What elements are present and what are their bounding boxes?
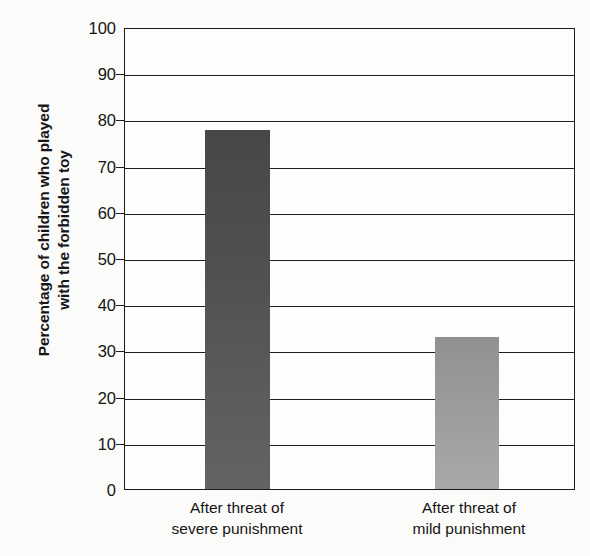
gridline-90 <box>125 75 574 76</box>
y-axis-title-line-1: Percentage of children who played <box>34 104 54 357</box>
bar-mild-punishment <box>435 337 499 489</box>
y-tick-mark-10 <box>116 444 124 445</box>
x-category-label-mild-line-1: After threat of <box>378 498 560 519</box>
y-tick-label-40: 40 <box>56 296 116 315</box>
gridline-50 <box>125 260 574 261</box>
plot-area <box>124 28 575 490</box>
y-tick-label-70: 70 <box>56 157 116 176</box>
x-category-label-severe-line-1: After threat of <box>146 498 328 519</box>
gridline-80 <box>125 121 574 122</box>
y-tick-mark-80 <box>116 120 124 121</box>
x-category-label-severe: After threat of severe punishment <box>146 498 328 539</box>
gridline-20 <box>125 399 574 400</box>
gridline-10 <box>125 445 574 446</box>
y-tick-mark-50 <box>116 259 124 260</box>
y-tick-label-80: 80 <box>56 111 116 130</box>
gridline-40 <box>125 306 574 307</box>
y-tick-mark-60 <box>116 213 124 214</box>
y-tick-label-10: 10 <box>56 434 116 453</box>
y-tick-label-90: 90 <box>56 65 116 84</box>
x-category-label-mild: After threat of mild punishment <box>378 498 560 539</box>
y-tick-mark-70 <box>116 167 124 168</box>
y-tick-label-20: 20 <box>56 388 116 407</box>
bar-severe-punishment <box>205 130 270 489</box>
y-tick-label-100: 100 <box>56 19 116 38</box>
gridline-30 <box>125 352 574 353</box>
y-tick-mark-20 <box>116 398 124 399</box>
y-tick-label-30: 30 <box>56 342 116 361</box>
y-tick-mark-40 <box>116 305 124 306</box>
gridline-60 <box>125 214 574 215</box>
y-tick-label-50: 50 <box>56 250 116 269</box>
bar-chart-figure: Percentage of children who played with t… <box>0 0 590 556</box>
x-category-label-mild-line-2: mild punishment <box>378 519 560 540</box>
y-tick-mark-90 <box>116 74 124 75</box>
gridline-70 <box>125 168 574 169</box>
x-category-label-severe-line-2: severe punishment <box>146 519 328 540</box>
y-tick-mark-30 <box>116 351 124 352</box>
y-tick-label-60: 60 <box>56 203 116 222</box>
y-tick-label-0: 0 <box>56 481 116 500</box>
